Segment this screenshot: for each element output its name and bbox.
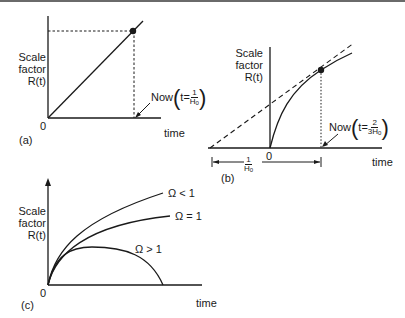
a-tag: (a) xyxy=(19,134,32,146)
diagram-canvas xyxy=(0,0,405,318)
b-origin: 0 xyxy=(266,150,272,162)
c-ylabel-line: R(t) xyxy=(0,229,46,241)
a-linear-line xyxy=(48,21,143,118)
b-interval-label: 1H0 xyxy=(244,156,253,174)
a-now-annotation: Now(t=1H0) xyxy=(151,88,206,108)
a-ylabel-line: R(t) xyxy=(0,75,46,87)
c-tag: (c) xyxy=(21,299,34,311)
b-frac-den: 3H xyxy=(368,127,378,136)
c-label-open: Ω < 1 xyxy=(168,187,195,199)
c-ylabel: Scale factor R(t) xyxy=(0,205,46,241)
b-interval-sub: 0 xyxy=(250,167,253,173)
c-xlabel: time xyxy=(196,297,217,309)
a-xlabel: time xyxy=(164,127,185,139)
a-t-eq: t= xyxy=(180,91,189,103)
b-now-label: Now xyxy=(329,121,351,133)
b-t-eq: t= xyxy=(358,121,367,133)
a-now-dot xyxy=(130,28,136,34)
b-now-annotation: Now(t=23H0) xyxy=(329,118,389,138)
b-now-dot xyxy=(318,67,324,73)
a-fraction: 1H0 xyxy=(190,89,199,107)
b-interval-fraction: 1H0 xyxy=(244,156,253,174)
b-ylabel-line: R(t) xyxy=(213,71,263,83)
c-origin: 0 xyxy=(40,287,46,299)
a-ylabel-line: Scale xyxy=(0,51,46,63)
c-ylabel-line: factor xyxy=(0,217,46,229)
b-ylabel-line: factor xyxy=(213,59,263,71)
b-xlabel: time xyxy=(372,156,393,168)
b-ylabel: Scale factor R(t) xyxy=(213,47,263,83)
a-now-label: Now xyxy=(151,91,173,103)
a-ylabel: Scale factor R(t) xyxy=(0,51,46,87)
b-tag: (b) xyxy=(221,172,234,184)
b-ylabel-line: Scale xyxy=(213,47,263,59)
c-curve-open xyxy=(48,193,163,285)
c-ylabel-line: Scale xyxy=(0,205,46,217)
c-label-flat: Ω = 1 xyxy=(175,210,202,222)
a-ylabel-line: factor xyxy=(0,63,46,75)
b-fraction: 23H0 xyxy=(368,119,382,137)
a-origin: 0 xyxy=(40,120,46,132)
c-label-closed: Ω > 1 xyxy=(135,243,162,255)
